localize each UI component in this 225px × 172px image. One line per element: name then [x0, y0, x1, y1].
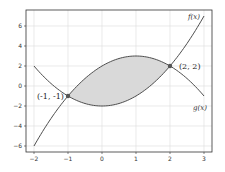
- x-tick-label: 2: [168, 155, 172, 162]
- y-tick-label: −6: [13, 142, 22, 149]
- y-tick-label: 4: [18, 42, 22, 49]
- point-label: (-1, -1): [37, 92, 64, 101]
- x-tick-label: −1: [64, 155, 73, 162]
- x-tick-label: 0: [100, 155, 104, 162]
- point-label: (2, 2): [179, 62, 201, 71]
- y-tick-label: −2: [13, 102, 22, 109]
- intersection-point: [168, 64, 172, 68]
- x-tick-label: 1: [134, 155, 138, 162]
- x-tick-label: −2: [30, 155, 39, 162]
- shaded-region: [68, 56, 170, 106]
- chart: −2−101236420−2−4−6(-1, -1)(2, 2)f(x)g(x): [0, 0, 225, 172]
- intersection-point: [66, 94, 70, 98]
- y-tick-label: −4: [13, 122, 22, 129]
- y-tick-label: 6: [18, 22, 22, 29]
- y-tick-label: 0: [18, 82, 22, 89]
- curve-label-f: f(x): [187, 13, 200, 21]
- curve-label-g: g(x): [193, 104, 207, 112]
- x-tick-label: 3: [202, 155, 206, 162]
- y-tick-label: 2: [18, 62, 22, 69]
